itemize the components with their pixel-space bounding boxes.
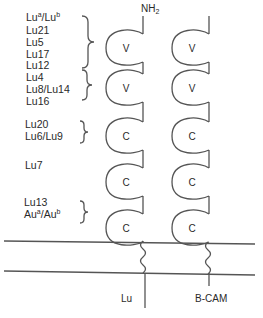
brace-group-2 xyxy=(82,70,92,100)
brace-group-1 xyxy=(82,16,94,68)
antigen-lu6-lu9: Lu6/Lu9 xyxy=(25,129,63,143)
bcam-transmembrane xyxy=(206,242,211,274)
membrane-inner-line xyxy=(4,271,255,275)
protein-label-bcam: B-CAM xyxy=(195,293,227,304)
lu-transmembrane xyxy=(141,241,146,273)
nh2-terminus-label: NH2 xyxy=(141,3,159,15)
protein-label-lu: Lu xyxy=(121,293,132,304)
bcam-domain-4: C xyxy=(188,177,195,188)
antigen-lua-lub: Lua/Lub xyxy=(26,10,60,24)
lu-domain-5: C xyxy=(122,223,129,234)
bcam-domain-5: C xyxy=(188,223,195,234)
antigen-lu7: Lu7 xyxy=(25,158,43,172)
lu-domain-4: C xyxy=(122,177,129,188)
bcam-domain-1: V xyxy=(189,43,196,54)
bcam-domain-3: C xyxy=(188,131,195,142)
antigen-lu16: Lu16 xyxy=(26,94,49,108)
lu-domain-1: V xyxy=(123,43,130,54)
lu-domain-3: C xyxy=(122,131,129,142)
brace-group-5 xyxy=(80,201,88,223)
antigen-aua-aub: Aua/Aub xyxy=(24,207,60,221)
lu-protein-chain xyxy=(106,16,146,308)
brace-group-3 xyxy=(80,121,88,143)
bcam-domain-2: V xyxy=(189,83,196,94)
lu-domain-2: V xyxy=(123,83,130,94)
bcam-protein-chain xyxy=(172,16,211,286)
membrane-outer-line xyxy=(4,241,255,244)
